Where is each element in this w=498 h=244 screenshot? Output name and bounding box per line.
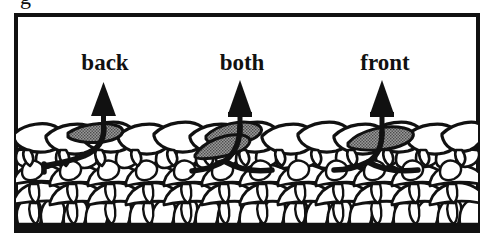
knitted-fabric xyxy=(14,122,484,231)
figure-canvas: back both front xyxy=(0,0,498,244)
label-back: back xyxy=(81,50,129,75)
label-both: both xyxy=(220,50,265,75)
label-front: front xyxy=(360,50,410,75)
knitting-stitch-figure: g xyxy=(0,0,498,244)
